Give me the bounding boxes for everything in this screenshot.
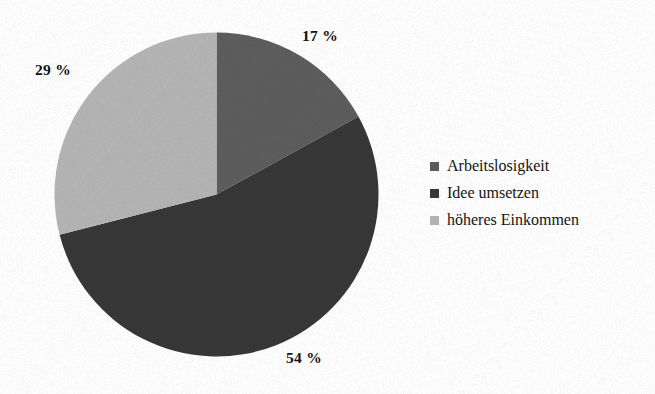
slice-data-label-idee-umsetzen: 54 %	[286, 349, 322, 367]
legend-item-label: Arbeitslosigkeit	[447, 158, 549, 174]
pie-chart-plot-area	[54, 32, 379, 357]
legend-item-label: Idee umsetzen	[447, 185, 539, 201]
pie-svg	[54, 32, 379, 357]
legend-swatch-icon	[430, 216, 439, 225]
slice-data-label-hoeheres-einkommen: 29 %	[35, 61, 71, 79]
legend-swatch-icon	[430, 189, 439, 198]
legend-item-label: höheres Einkommen	[447, 212, 579, 228]
chart-legend: Arbeitslosigkeit Idee umsetzen höheres E…	[430, 152, 645, 233]
legend-item-arbeitslosigkeit: Arbeitslosigkeit	[430, 152, 645, 179]
legend-swatch-icon	[430, 162, 439, 171]
legend-item-hoeheres-einkommen: höheres Einkommen	[430, 206, 645, 233]
legend-item-idee-umsetzen: Idee umsetzen	[430, 179, 645, 206]
pie-chart-figure: 17 % 54 % 29 % Arbeitslosigkeit Idee ums…	[0, 0, 655, 394]
pie-slices	[54, 33, 378, 357]
slice-data-label-arbeitslosigkeit: 17 %	[302, 27, 338, 45]
